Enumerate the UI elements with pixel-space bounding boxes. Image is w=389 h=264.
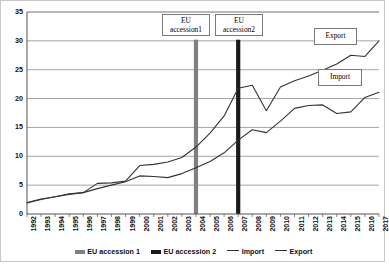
callout-export-label: Export (314, 28, 357, 45)
x-tick-label: 2016 (368, 216, 375, 232)
x-tick-label: 2008 (255, 216, 262, 232)
x-tick-label: 1992 (30, 216, 37, 232)
y-tick-label: 5 (3, 182, 23, 189)
x-tick-label: 1998 (114, 216, 121, 232)
x-tick-label: 2017 (382, 216, 389, 232)
x-tick-label: 2006 (227, 216, 234, 232)
x-tick-label: 1997 (100, 216, 107, 232)
y-tick-label: 35 (3, 8, 23, 15)
callout-import-label: Import (318, 69, 362, 86)
x-tick-label: 1993 (44, 216, 51, 232)
legend-item-label: EU accession 1 (87, 247, 140, 256)
x-tick-label: 2012 (312, 216, 319, 232)
legend-line-swatch (227, 250, 239, 251)
y-tick-label: 20 (3, 95, 23, 102)
x-tick-label: 2002 (171, 216, 178, 232)
legend-item[interactable]: Import (227, 247, 264, 256)
callout-accession-1-line2: accession1 (164, 26, 208, 35)
y-tick-label: 10 (3, 153, 23, 160)
x-tick-label: 2000 (143, 216, 150, 232)
y-axis: 05101520253035 (1, 12, 23, 214)
legend-line-swatch (275, 250, 287, 251)
x-tick-label: 1994 (58, 216, 65, 232)
legend-bar-swatch (151, 250, 161, 254)
x-tick-label: 2009 (269, 216, 276, 232)
x-tick-label: 2013 (326, 216, 333, 232)
callout-eu-accession-2: EU accession2 (215, 14, 263, 36)
chart-legend: EU accession 1EU accession 2ImportExport (1, 247, 386, 256)
y-tick-label: 0 (3, 210, 23, 217)
callout-accession-2-line2: accession2 (217, 26, 261, 35)
callout-eu-accession-1: EU accession1 (162, 14, 210, 36)
x-tick-label: 2015 (354, 216, 361, 232)
event-marker-bars (194, 40, 240, 214)
legend-item-label: EU accession 2 (163, 247, 216, 256)
x-tick-label: 1999 (129, 216, 136, 232)
legend-item[interactable]: Export (275, 247, 312, 256)
legend-item-label: Import (242, 247, 264, 256)
x-tick-label: 2014 (340, 216, 347, 232)
x-tick-label: 2004 (199, 216, 206, 232)
legend-bar-swatch (75, 250, 85, 254)
y-tick-label: 30 (3, 37, 23, 44)
x-tick-label: 2010 (283, 216, 290, 232)
legend-item-label: Export (290, 247, 313, 256)
x-tick-label: 2011 (298, 216, 305, 231)
x-tick-label: 1996 (86, 216, 93, 232)
x-tick-label: 2003 (185, 216, 192, 232)
data-series-lines (27, 41, 379, 203)
y-tick-label: 25 (3, 66, 23, 73)
legend-item[interactable]: EU accession 2 (151, 247, 216, 256)
x-axis: 1992199319941995199619971998199920002001… (27, 216, 379, 246)
x-tick-label: 2007 (241, 216, 248, 232)
x-tick-label: 2005 (213, 216, 220, 232)
y-tick-label: 15 (3, 124, 23, 131)
chart-container: 05101520253035 1992199319941995199619971… (0, 0, 385, 262)
x-tick-label: 1995 (72, 216, 79, 232)
x-tick-label: 2001 (157, 216, 164, 232)
legend-item[interactable]: EU accession 1 (75, 247, 140, 256)
